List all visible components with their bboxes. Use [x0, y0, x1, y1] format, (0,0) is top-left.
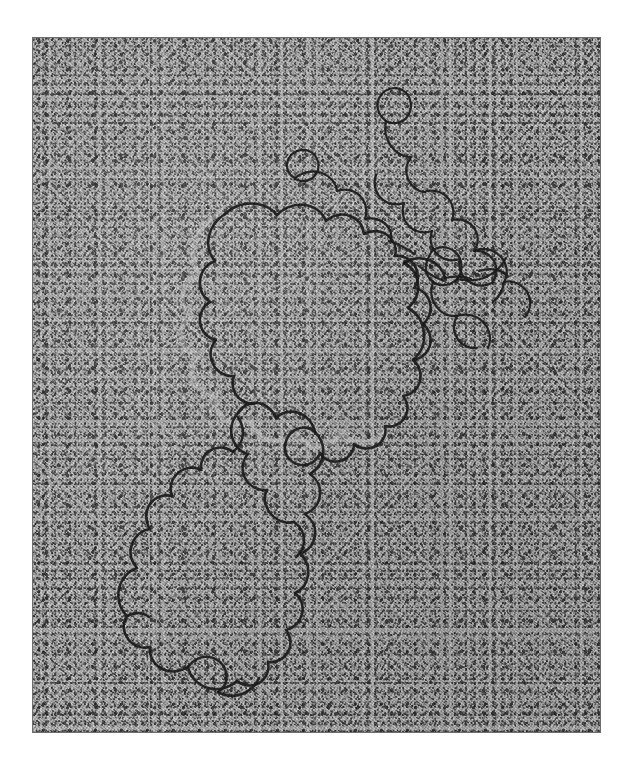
crossing-accent	[403, 260, 407, 264]
loop-segment-bottom	[124, 613, 237, 689]
loop-halo-upper	[181, 213, 386, 446]
tangle-vertical-strand	[385, 121, 424, 192]
crossing-accent	[475, 273, 479, 277]
tangle-return-loop-b	[375, 175, 432, 232]
loop-segment-right-upper	[285, 360, 421, 465]
connector-upper-right	[404, 263, 424, 360]
relaxed-open-loop	[118, 203, 430, 695]
loop-segment-top	[225, 203, 431, 360]
tangle-left-lobe	[287, 150, 319, 181]
loop-segment-left-upper	[200, 214, 254, 404]
crossing-accent	[441, 276, 447, 282]
tangle-stub-d	[389, 241, 414, 254]
crossing-accent	[455, 279, 459, 283]
electron-micrograph-plate	[33, 38, 600, 732]
loop-segment-left-lower	[118, 448, 233, 616]
tangle-stub-e	[493, 282, 504, 302]
loop-segment-left-mid	[231, 413, 294, 523]
dna-molecule-trace	[33, 38, 600, 732]
tangle-right-arc	[474, 249, 530, 317]
figure-page	[0, 0, 628, 758]
loop-segment-bottom-right	[237, 593, 303, 685]
tangle-top-lobe	[378, 88, 411, 123]
crossing-accent	[429, 265, 434, 270]
